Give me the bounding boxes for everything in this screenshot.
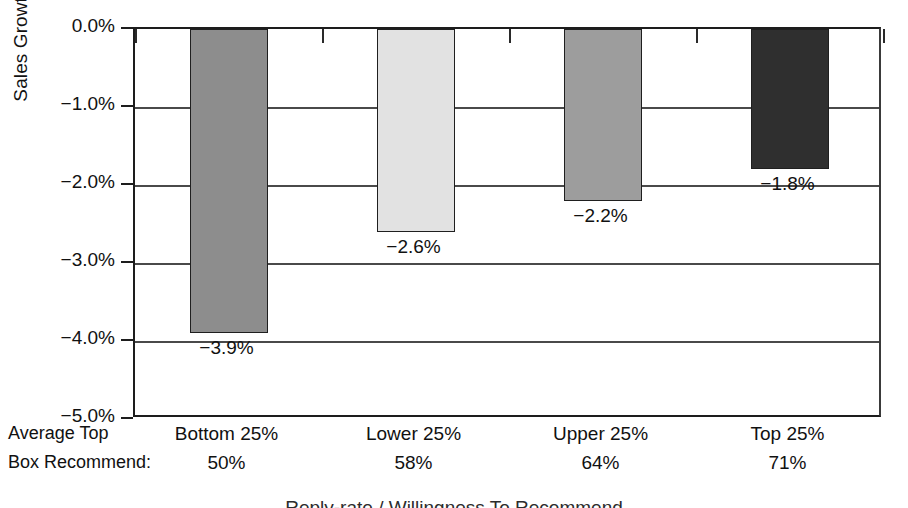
bar-value-label: −2.6% — [354, 236, 474, 258]
y-tick-mark — [121, 27, 133, 29]
y-tick-mark — [121, 183, 133, 185]
y-tick-label: −1.0% — [11, 93, 115, 115]
bar-value-label: −1.8% — [728, 173, 848, 195]
y-tick-mark — [121, 105, 133, 107]
y-tick-label: 0.0% — [11, 15, 115, 37]
bar-value-label: −3.9% — [167, 337, 287, 359]
secondary-row-value: 64% — [511, 452, 691, 474]
y-tick-mark — [121, 261, 133, 263]
bar — [564, 29, 642, 201]
x-tick-mark — [883, 29, 885, 43]
x-category-label: Top 25% — [698, 423, 878, 445]
x-category-label: Bottom 25% — [137, 423, 317, 445]
secondary-row-header-line1: Average Top — [8, 423, 108, 444]
x-tick-mark — [322, 29, 324, 43]
bar — [751, 29, 829, 169]
secondary-row-value: 58% — [324, 452, 504, 474]
x-tick-mark — [509, 29, 511, 43]
chart-caption: Reply-rate / Willingness To Recommend — [0, 497, 908, 508]
bar-value-label: −2.2% — [541, 205, 661, 227]
caption-clip: Reply-rate / Willingness To Recommend — [0, 497, 908, 508]
secondary-row-header-line2: Box Recommend: — [8, 452, 151, 473]
bar — [377, 29, 455, 232]
y-tick-mark — [121, 417, 133, 419]
x-category-label: Upper 25% — [511, 423, 691, 445]
bar — [190, 29, 268, 333]
x-tick-mark — [135, 29, 137, 43]
secondary-row-value: 71% — [698, 452, 878, 474]
y-tick-mark — [121, 339, 133, 341]
secondary-row-value: 50% — [137, 452, 317, 474]
x-category-label: Lower 25% — [324, 423, 504, 445]
x-tick-mark — [696, 29, 698, 43]
y-tick-label: −3.0% — [11, 249, 115, 271]
y-tick-label: −2.0% — [11, 171, 115, 193]
y-tick-label: −4.0% — [11, 327, 115, 349]
chart-figure: Sales Growth 0.0%−1.0%−2.0%−3.0%−4.0%−5.… — [0, 0, 908, 508]
